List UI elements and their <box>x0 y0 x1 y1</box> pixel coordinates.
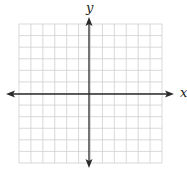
y-axis-label: y <box>86 1 93 14</box>
x-axis-label: x <box>180 86 187 99</box>
coordinate-plane: y x <box>0 0 187 175</box>
grid-svg <box>0 0 187 175</box>
